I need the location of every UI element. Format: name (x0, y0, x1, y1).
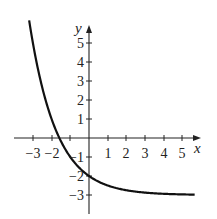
y-tick-labels: 5 4 3 2 1 −1 −2 −3 (69, 36, 84, 203)
x-axis-label: x (193, 140, 201, 156)
y-tick-label: 4 (77, 55, 84, 70)
x-tick-label: 3 (142, 146, 149, 161)
exponential-curve (29, 20, 194, 194)
x-tick-label: 5 (179, 146, 186, 161)
y-axis-arrow-icon (86, 25, 92, 33)
y-tick-label: 3 (77, 74, 84, 89)
y-tick-label: 2 (77, 93, 84, 108)
x-tick-labels: −3 −2 1 2 3 4 5 (26, 146, 186, 161)
y-tick-label: 1 (77, 112, 84, 127)
y-tick-label: −2 (69, 169, 84, 184)
y-axis-label: y (73, 20, 82, 36)
x-tick-label: 1 (105, 146, 112, 161)
x-tick-label: 2 (123, 146, 130, 161)
x-tick-label: 4 (161, 146, 168, 161)
y-tick-label: 5 (77, 36, 84, 51)
y-tick-label: −3 (69, 188, 84, 203)
function-graph: −3 −2 1 2 3 4 5 5 4 3 2 1 −1 −2 −3 x y (0, 0, 217, 219)
x-tick-label: −2 (45, 146, 60, 161)
x-tick-label: −3 (26, 146, 41, 161)
y-tick-label: −1 (69, 150, 84, 165)
